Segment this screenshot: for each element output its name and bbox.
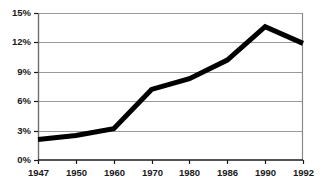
- y-tick-label: 9%: [17, 66, 31, 77]
- line-chart: 0%3%6%9%12%15% 1947195019601970198019861…: [0, 0, 327, 187]
- y-tick-label: 6%: [17, 95, 31, 106]
- x-tick-label: 1990: [255, 167, 276, 178]
- x-tick-label: 1986: [217, 167, 238, 178]
- x-tick-label: 1992: [293, 167, 314, 178]
- y-tick-label: 3%: [17, 125, 31, 136]
- x-tick-label: 1980: [179, 167, 200, 178]
- y-tick-label: 12%: [12, 36, 32, 47]
- x-tick-label: 1970: [142, 167, 163, 178]
- y-tick-label: 15%: [12, 7, 32, 18]
- x-tick-label: 1960: [104, 167, 125, 178]
- y-tick-label: 0%: [17, 154, 31, 165]
- x-tick-label: 1950: [66, 167, 87, 178]
- x-tick-label: 1947: [28, 167, 49, 178]
- chart-background: [0, 0, 327, 187]
- chart-canvas: 0%3%6%9%12%15% 1947195019601970198019861…: [0, 0, 327, 187]
